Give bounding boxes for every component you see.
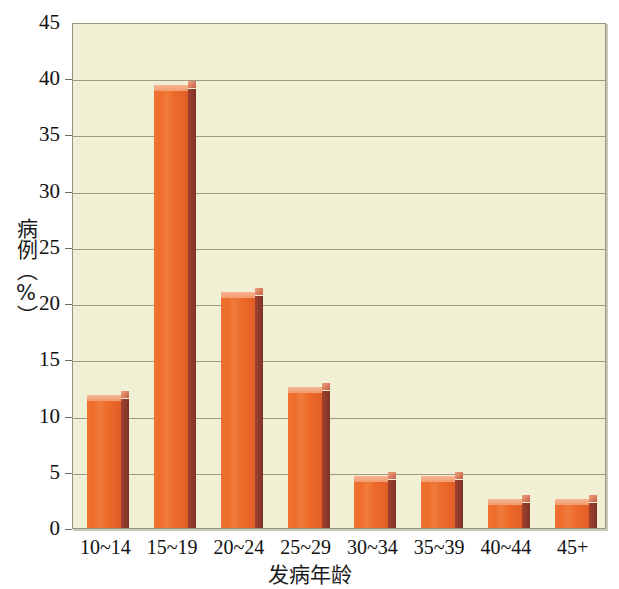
bar-front-face: [87, 395, 121, 528]
gridline: [73, 418, 605, 419]
y-tick-label: 25: [26, 237, 60, 258]
bar: [154, 85, 188, 528]
y-tick-mark: [65, 417, 72, 418]
bar-top-face: [488, 499, 522, 505]
x-tick-label: 45+: [539, 536, 606, 558]
bar-front-face: [354, 476, 388, 528]
y-tick-mark: [65, 304, 72, 305]
bar-top-face: [288, 387, 322, 393]
bar: [87, 395, 121, 528]
y-tick-mark: [65, 473, 72, 474]
y-tick-label: 0: [26, 518, 60, 539]
bar-side-face: [322, 391, 330, 528]
bar-side-face: [522, 503, 530, 528]
x-tick-label: 30~34: [339, 536, 406, 558]
bar-chart: 病例（%） 051015202530354045 10~1415~1920~24…: [0, 0, 619, 589]
bar-side-face: [455, 480, 463, 528]
bar-top-face: [354, 476, 388, 482]
y-tick-mark: [65, 192, 72, 193]
bar-front-face: [555, 499, 589, 528]
bar-top-face: [421, 476, 455, 482]
x-axis-title: 发病年龄: [0, 563, 619, 587]
bar: [288, 387, 322, 528]
y-tick-mark: [65, 79, 72, 80]
bar-side-top-face: [255, 288, 263, 295]
y-tick-label: 30: [26, 181, 60, 202]
bar-side-top-face: [121, 391, 129, 398]
plot-area: [72, 23, 606, 529]
y-tick-mark: [65, 135, 72, 136]
bar: [488, 499, 522, 528]
y-tick-label: 35: [26, 124, 60, 145]
x-tick-label: 35~39: [406, 536, 473, 558]
gridline: [73, 80, 605, 81]
y-tick-label: 15: [26, 349, 60, 370]
bar-top-face: [154, 85, 188, 91]
y-tick-mark: [65, 529, 72, 530]
gridline: [73, 249, 605, 250]
x-tick-label: 20~24: [206, 536, 273, 558]
y-tick-label: 10: [26, 406, 60, 427]
x-tick-label: 15~19: [139, 536, 206, 558]
bar-front-face: [288, 387, 322, 528]
bar-side-top-face: [322, 383, 330, 390]
bar-side-top-face: [589, 495, 597, 502]
gridline: [73, 136, 605, 137]
bar-top-face: [221, 292, 255, 298]
y-tick-mark: [65, 360, 72, 361]
bar-front-face: [221, 292, 255, 528]
bar-side-face: [121, 399, 129, 528]
gridline: [73, 361, 605, 362]
bar-side-face: [188, 89, 196, 528]
bar-front-face: [154, 85, 188, 528]
y-tick-mark: [65, 248, 72, 249]
y-tick-label: 40: [26, 68, 60, 89]
bar: [221, 292, 255, 528]
bar-side-top-face: [455, 472, 463, 479]
bar-side-top-face: [188, 81, 196, 88]
bar-side-top-face: [522, 495, 530, 502]
bar-side-top-face: [388, 472, 396, 479]
y-tick-label: 5: [26, 462, 60, 483]
bar-side-face: [388, 480, 396, 528]
bar: [354, 476, 388, 528]
bar-top-face: [555, 499, 589, 505]
gridline: [73, 474, 605, 475]
gridline: [73, 193, 605, 194]
bar-side-face: [589, 503, 597, 528]
y-tick-label: 20: [26, 293, 60, 314]
x-tick-label: 25~29: [272, 536, 339, 558]
x-tick-label: 40~44: [473, 536, 540, 558]
bar-side-face: [255, 296, 263, 528]
bar: [421, 476, 455, 528]
y-tick-label: 45: [26, 12, 60, 33]
bar-top-face: [87, 395, 121, 401]
bar: [555, 499, 589, 528]
x-tick-label: 10~14: [72, 536, 139, 558]
bar-front-face: [488, 499, 522, 528]
bar-front-face: [421, 476, 455, 528]
gridline: [73, 305, 605, 306]
